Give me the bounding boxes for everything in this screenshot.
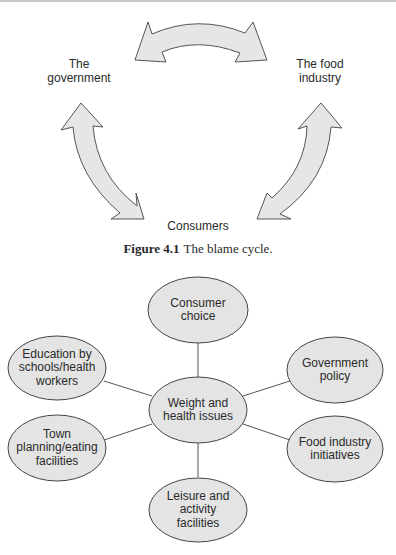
connector-food-industry (243, 424, 290, 440)
node-town-planning: Town planning/eating facilities (8, 415, 106, 481)
connector-education (104, 381, 152, 396)
connector-town-planning (104, 424, 152, 440)
node-government-policy: Government policy (287, 337, 383, 403)
arrow-food-industry-consumers (257, 103, 342, 219)
node-food-industry-initiatives: Food industry initiatives (287, 416, 383, 482)
node-food-industry: The food industry (285, 57, 355, 85)
node-leisure-activity: Leisure and activity facilities (149, 478, 247, 542)
node-consumers: Consumers (158, 219, 238, 233)
node-government: The government (44, 57, 114, 85)
node-consumer-choice: Consumer choice (148, 277, 248, 343)
figure-number: Figure 4.1 (123, 241, 179, 256)
figure-caption: Figure 4.1The blame cycle. (0, 241, 396, 257)
node-weight-health: Weight and health issues (149, 377, 247, 443)
arrow-government-consumers (61, 103, 144, 219)
figure-title: The blame cycle. (183, 241, 272, 256)
connector-government-policy (243, 381, 290, 396)
node-education: Education by schools/health workers (8, 336, 106, 400)
arrow-government-food-industry (135, 22, 267, 62)
